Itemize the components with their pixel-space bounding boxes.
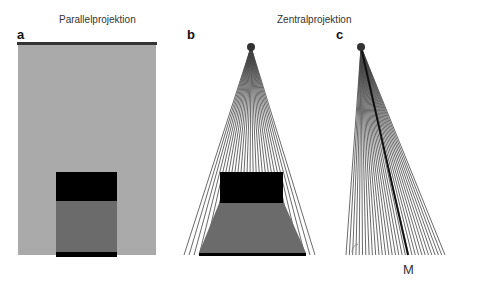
object-black-block xyxy=(220,172,283,203)
panel-b-central xyxy=(184,43,315,256)
projection-diagram xyxy=(0,0,489,290)
object-gray-area xyxy=(56,201,117,253)
panel-c-central xyxy=(346,43,445,255)
label-m: M xyxy=(403,262,414,277)
projection-center-point xyxy=(357,43,365,51)
top-bar xyxy=(17,42,157,45)
projection-trapezoid xyxy=(199,201,306,253)
central-lines xyxy=(346,47,445,255)
projection-center-point xyxy=(247,43,255,51)
object-black-block xyxy=(56,172,117,201)
panel-a-parallel xyxy=(17,42,157,257)
object-base-bar xyxy=(199,253,306,256)
object-base-bar xyxy=(56,252,117,257)
